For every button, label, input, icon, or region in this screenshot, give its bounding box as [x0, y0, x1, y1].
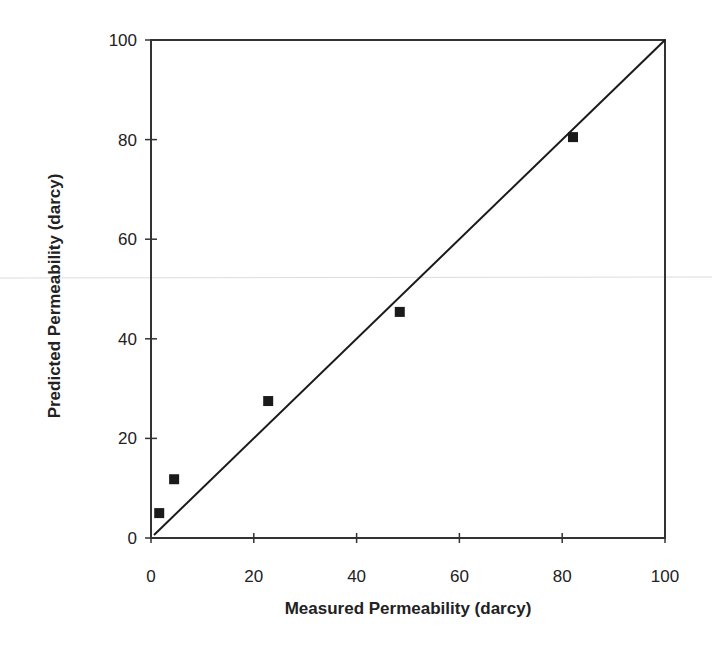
square-marker — [568, 132, 578, 142]
one-to-one-line — [154, 40, 665, 535]
square-marker — [395, 307, 405, 317]
y-axis-title: Predicted Permeability (darcy) — [45, 174, 64, 419]
reference-line — [154, 40, 665, 535]
scan-artifact-line — [0, 277, 712, 278]
x-tick-label: 100 — [651, 567, 679, 586]
y-tick-label: 20 — [118, 429, 137, 448]
x-tick-label: 80 — [553, 567, 572, 586]
square-marker — [169, 474, 179, 484]
y-tick-label: 100 — [109, 31, 137, 50]
x-tick-label: 0 — [146, 567, 155, 586]
x-axis-title: Measured Permeability (darcy) — [285, 599, 532, 618]
data-points — [154, 132, 578, 518]
y-tick-label: 40 — [118, 330, 137, 349]
square-marker — [263, 396, 273, 406]
y-tick-label: 0 — [128, 529, 137, 548]
y-axis-ticks: 020406080100 — [109, 31, 157, 548]
scatter-chart: 020406080100 020406080100 Measured Perme… — [0, 0, 712, 656]
x-tick-label: 40 — [347, 567, 366, 586]
square-marker — [154, 508, 164, 518]
x-tick-label: 20 — [244, 567, 263, 586]
y-tick-label: 80 — [118, 131, 137, 150]
y-tick-label: 60 — [118, 230, 137, 249]
x-tick-label: 60 — [450, 567, 469, 586]
x-axis-ticks: 020406080100 — [146, 533, 679, 586]
